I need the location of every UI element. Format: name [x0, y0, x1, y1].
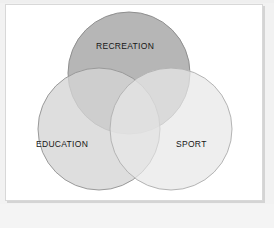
- top-strip: [0, 0, 274, 3]
- circle-sport[interactable]: [110, 68, 232, 190]
- venn-label-sport: SPORT: [176, 139, 207, 149]
- venn-label-recreation: RECREATION: [96, 41, 154, 51]
- bottom-strip: [0, 204, 274, 228]
- card-edge-bottom: [7, 201, 263, 203]
- card-edge-right: [263, 6, 265, 203]
- venn-svg: [5, 4, 263, 201]
- venn-diagram-page: RECREATION EDUCATION SPORT: [0, 0, 274, 228]
- venn-label-education: EDUCATION: [36, 139, 88, 149]
- venn-circles: [38, 12, 232, 190]
